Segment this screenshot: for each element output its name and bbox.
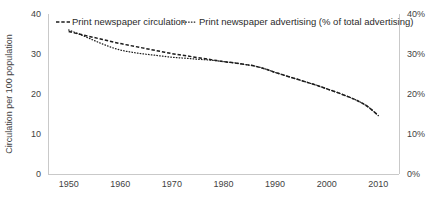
x-axis-tick-label: 1950 bbox=[59, 179, 79, 189]
legend-label-circulation: Print newspaper circulation bbox=[72, 16, 186, 27]
x-axis-ticks: 1950196019701980199020002010 bbox=[59, 179, 389, 189]
x-axis-tick-label: 2000 bbox=[317, 179, 337, 189]
right-axis-ticks: 0%10%20%30%40% bbox=[407, 9, 425, 179]
right-axis-tick-label: 30% bbox=[407, 49, 425, 59]
right-axis-tick-label: 20% bbox=[407, 89, 425, 99]
left-axis-ticks: 010203040 bbox=[31, 9, 41, 179]
axis-frame bbox=[48, 14, 399, 174]
x-axis-tick-label: 1960 bbox=[110, 179, 130, 189]
x-axis-tick-label: 1990 bbox=[265, 179, 285, 189]
x-axis-tick-label: 2010 bbox=[368, 179, 388, 189]
series-group bbox=[69, 30, 379, 116]
left-axis-tick-label: 10 bbox=[31, 129, 41, 139]
left-axis-tick-label: 20 bbox=[31, 89, 41, 99]
series-line-circulation bbox=[69, 32, 379, 116]
chart-container: 0102030400%10%20%30%40%19501960197019801… bbox=[0, 0, 439, 200]
legend-label-advertising: Print newspaper advertising (% of total … bbox=[199, 16, 413, 27]
left-axis-tick-label: 30 bbox=[31, 49, 41, 59]
left-axis-tick-label: 40 bbox=[31, 9, 41, 19]
y-axis-title: Circulation per 100 population bbox=[4, 34, 14, 154]
right-axis-tick-label: 10% bbox=[407, 129, 425, 139]
dual-axis-line-chart: 0102030400%10%20%30%40%19501960197019801… bbox=[0, 0, 439, 200]
x-axis-tick-label: 1970 bbox=[162, 179, 182, 189]
chart-legend: Print newspaper circulationPrint newspap… bbox=[56, 16, 413, 27]
right-axis-tick-label: 0% bbox=[407, 169, 420, 179]
x-axis-tick-label: 1980 bbox=[213, 179, 233, 189]
left-axis-tick-label: 0 bbox=[36, 169, 41, 179]
